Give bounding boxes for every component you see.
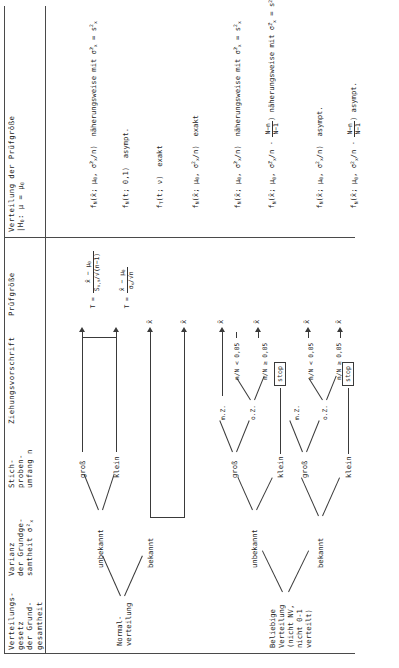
statistic-T-unknown-sigma: T = x̄ − μ0Sx,n/√(n−1) [76, 251, 111, 324]
dist-row8: fN(x̄; μ0, σ2x/n · N−nN−1) asympt. [338, 82, 371, 226]
node-variance-unbekannt-beliebig[interactable]: unbekannt [250, 529, 259, 568]
node-variance-bekannt-normal[interactable]: bekannt [146, 538, 155, 568]
statistic-T-known-sigma: T = x̄ − μ0σx/√n [110, 267, 145, 324]
node-ratio-small-bekannt[interactable]: n/N < 0,05 [306, 343, 315, 380]
node-beliebige-verteilung[interactable]: Beliebige Verteilung (nicht NV, nicht 0-… [268, 605, 313, 648]
header-rule-top [4, 6, 5, 654]
column-header-ziehungsvorschrift: Ziehungsvorschrift [7, 337, 16, 424]
node-n-klein-normal[interactable]: klein [112, 456, 121, 478]
statistic-xbar-row6: x̄ [252, 320, 261, 324]
edge-oz-to-ratio-small-beliebig [236, 378, 251, 401]
run-line-row8 [340, 332, 341, 338]
table-sheet: x̄ Verteilungs- gesetz der Grund- gesamt… [0, 0, 399, 668]
node-n-gross-normal[interactable]: groß [78, 461, 87, 478]
edge-bekannt-to-gross-beliebig [301, 477, 319, 516]
edge-unbekannt-to-gross-normal [84, 475, 99, 511]
column-header-stichprobenumfang: Stich- proben- umfang n [7, 449, 35, 488]
connector-bekannt-normal [150, 517, 184, 518]
node-ohne-zuruecklegen-beliebig[interactable]: o.Z. [248, 405, 257, 420]
node-ohne-zuruecklegen-beliebig-bekannt[interactable]: o.Z. [320, 405, 329, 420]
node-n-klein-beliebig[interactable]: klein [276, 456, 285, 478]
run-line-row5b [236, 332, 237, 338]
edge-normal-to-bekannt [124, 556, 143, 597]
column-header-verteilung-pruefgroesse: Verteilung der Prüfgröße |H0: μ = μ0 [7, 116, 28, 232]
run-line-row4 [184, 332, 185, 518]
table-vertical-rule-right [4, 237, 355, 238]
edge-beliebig-to-bekannt [288, 550, 309, 592]
statistic-xbar-row3: x̄ [145, 320, 154, 324]
statistic-xbar-row4: x̄ [179, 320, 188, 324]
brace-bottom-rows12 [116, 332, 117, 338]
arrow-row6 [255, 327, 261, 332]
edge-bekannt-to-klein-beliebig [322, 477, 340, 516]
run-line-row7 [308, 332, 309, 338]
edge-gross-to-mz-beliebig-bekannt [289, 420, 303, 452]
arrow-row4 [181, 327, 187, 332]
node-ratio-small-beliebig[interactable]: n/N < 0,05 [232, 343, 241, 380]
arrow-row3 [147, 327, 153, 332]
table-header: Verteilungs- gesetz der Grund- gesamthei… [0, 0, 46, 668]
node-n-gross-beliebig[interactable]: groß [230, 461, 239, 478]
dist-row2: fN(t; 0,1) asympt. [112, 128, 141, 226]
dist-row3: fT(t; ν) exakt [146, 145, 175, 226]
node-variance-unbekannt-normal[interactable]: unbekannt [96, 529, 105, 568]
header-rule-bottom [45, 6, 46, 654]
node-ratio-large-beliebig[interactable]: n/N ≥ 0,05 [260, 343, 269, 380]
dist-row1: fN(x̄; μ0, σ̂2x/n) näherungsweise mit σ̂… [78, 21, 109, 226]
column-header-varianz: Varianz der Grundge- samtheit σ²x [7, 518, 37, 576]
node-n-gross-beliebig-bekannt[interactable]: groß [300, 461, 309, 478]
run-line-row3 [150, 332, 151, 518]
run-line-klein-bekannt [348, 388, 349, 454]
table-vertical-rule-left [4, 653, 355, 654]
node-variance-bekannt-beliebig[interactable]: bekannt [316, 538, 325, 568]
stop-box-beliebig-bekannt[interactable]: stop [342, 362, 354, 386]
run-line-klein-beliebig [280, 388, 281, 454]
edge-unbekannt-to-klein-normal [102, 474, 115, 510]
rotated-page-stage: x̄ Verteilungs- gesetz der Grund- gesamt… [0, 0, 399, 668]
edge-unbekannt-to-gross-beliebig [237, 477, 253, 510]
edge-gross-to-oz-beliebig-bekannt [306, 420, 320, 452]
brace-top-rows12 [82, 332, 83, 338]
dist-row6: fN(x̄; μ0, σ̂2x/n · N−nN−1) näherungswei… [256, 0, 289, 226]
stop-box-beliebig-unbekannt[interactable]: stop [274, 362, 286, 386]
column-header-pruefgroesse: Prüfgröße [7, 272, 16, 316]
run-line-row1 [82, 332, 83, 452]
arrow-row7 [305, 327, 311, 332]
brace-vertical-rows12 [82, 337, 116, 338]
edge-gross-to-oz-beliebig [236, 420, 250, 452]
node-mit-zuruecklegen-beliebig[interactable]: m.Z. [218, 405, 227, 420]
run-line-row6 [222, 332, 223, 336]
node-mit-zuruecklegen-beliebig-bekannt[interactable]: m.Z. [292, 405, 301, 420]
dist-row7: fN(x̄; μ0, σ2x/n) asympt. [304, 106, 335, 226]
dist-row4: fN(x̄; μ0, σ2x/n) exakt [180, 115, 211, 226]
column-header-verteilungsgesetz: Verteilungs- gesetz der Grund- gesamthei… [7, 592, 44, 650]
edge-unbekannt-to-klein-beliebig [256, 477, 273, 510]
arrow-row5 [219, 327, 225, 332]
node-n-klein-beliebig-bekannt[interactable]: klein [344, 456, 353, 478]
dist-row5: fN(x̄; μ0, σ̂2x/n) näherungsweise mit σ̂… [222, 21, 253, 226]
statistic-xbar-row7: x̄ [302, 320, 311, 324]
run-line-row2 [116, 332, 117, 452]
edge-oz-to-ratio-small-bekannt [308, 378, 323, 401]
edge-gross-to-mz-beliebig [219, 420, 233, 452]
statistic-xbar-row8: x̄ [334, 320, 343, 324]
edge-beliebig-to-unbekannt [262, 550, 283, 592]
node-normalverteilung[interactable]: Normal- verteilung [115, 603, 133, 646]
run-line-row5 [222, 332, 223, 396]
statistic-xbar-row5: x̄ [216, 320, 225, 324]
arrow-row8 [337, 327, 343, 332]
run-line-row6b [258, 332, 259, 338]
